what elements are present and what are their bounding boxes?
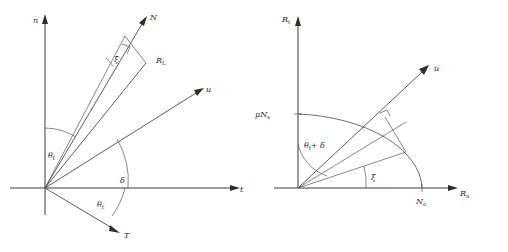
Rt-axis-label: Rt [281,15,291,25]
theta-f-delta-label: θf+ δ [304,141,325,151]
N-vector-arrowhead [139,16,147,26]
theta-f-delta-ray [298,122,406,188]
N-vector-line [45,24,142,188]
mu-ns-tick-label: μNs [255,110,270,120]
T-vector-arrowhead [109,225,120,233]
xi-label: ξ [371,173,376,182]
N-vector-label: N [149,13,158,22]
Rn-axis-label: Rn [459,189,470,199]
left-diagram-panel: n t N RL u T θf ξ δ θf [0,0,254,252]
xi-label: ξ [114,55,119,64]
construction-line-parallel [45,36,125,188]
n-axis-label: n [33,16,38,25]
xi-arc [364,166,366,188]
n-axis-arrowhead [42,14,48,24]
right-angle-mark-normality [380,110,390,116]
u-vector-arrowhead [194,88,204,96]
delta-label: δ [120,176,125,185]
Rn-axis-arrowhead [448,185,458,191]
Rt-axis-arrowhead [295,16,301,26]
theta-f-upper-label: θf [48,151,56,161]
theta-f-lower-arc [112,188,125,216]
tangent-construction-line [385,117,406,152]
u-vector-label: u [206,85,211,94]
T-vector-label: T [124,231,130,240]
theta-f-lower-label: θf [97,200,105,210]
RL-vector-label: RL [155,56,166,66]
right-diagram-panel: Rt Rn μNs No u θf+ δ ξ [254,0,508,252]
figure-root: n t N RL u T θf ξ δ θf [0,0,508,252]
u-vector-line [45,93,196,188]
xi-ray [298,152,406,188]
no-tick-label: No [415,197,426,207]
t-axis-arrowhead [230,185,240,191]
theta-f-upper-arc [45,128,76,137]
u-vector-label: u [434,64,439,73]
construction-line-closing [125,36,146,63]
t-axis-label: t [240,185,244,194]
RL-vector-line [45,63,146,188]
